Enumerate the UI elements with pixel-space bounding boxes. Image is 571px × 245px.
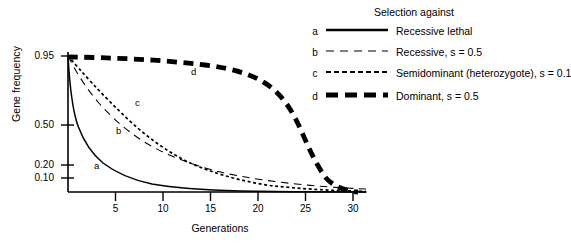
curve-inline-label-c: c <box>135 97 140 108</box>
legend-key-b: b <box>310 47 320 58</box>
legend-key-c: c <box>310 68 320 79</box>
legend-title: Selection against <box>374 6 454 18</box>
x-tick-label-10: 10 <box>151 203 175 214</box>
legend-sample-short-dash <box>326 66 390 78</box>
x-tick-label-25: 25 <box>294 203 318 214</box>
x-axis-title: Generations <box>130 222 310 234</box>
x-tick-label-5: 5 <box>104 203 128 214</box>
legend-label-d: Dominant, s = 0.5 <box>396 90 479 102</box>
legend-sample-solid <box>326 24 390 36</box>
x-tick-label-20: 20 <box>246 203 270 214</box>
x-tick-marks <box>116 192 354 201</box>
legend-label-b: Recessive, s = 0.5 <box>396 46 482 58</box>
x-tick-label-30: 30 <box>341 203 365 214</box>
legend-label-a: Recessive lethal <box>396 25 472 37</box>
legend-label-c: Semidominant (heterozygote), s = 0.1 <box>396 67 571 79</box>
y-tick-label-050: 0.50 <box>20 119 54 130</box>
y-tick-label-020: 0.20 <box>20 159 54 170</box>
y-axis-title: Gene frequency <box>10 24 22 144</box>
legend-sample-heavy-dash <box>326 89 390 101</box>
legend-key-d: d <box>310 91 320 102</box>
legend-key-a: a <box>310 26 320 37</box>
curve-inline-label-d: d <box>191 66 196 77</box>
y-tick-label-010: 0.10 <box>20 172 54 183</box>
legend-sample-long-dash <box>326 45 390 57</box>
x-tick-label-15: 15 <box>199 203 223 214</box>
y-tick-label-095: 0.95 <box>20 50 54 61</box>
curve-inline-label-a: a <box>94 160 99 171</box>
curve-inline-label-b: b <box>116 125 121 136</box>
